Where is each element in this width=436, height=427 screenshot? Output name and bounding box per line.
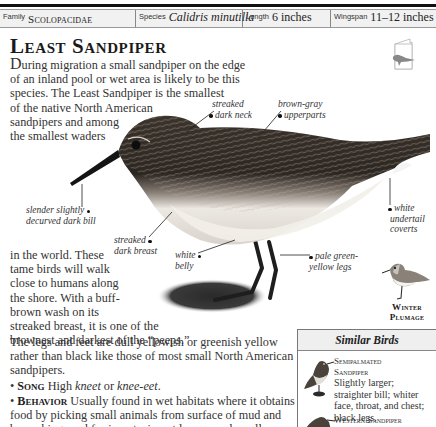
callout-legs: pale green- yellow legs	[309, 251, 358, 272]
western-sandpiper-icon	[302, 414, 336, 427]
continuation-paragraph: in the world. These tame birds will walk…	[10, 248, 189, 347]
callout-dot	[87, 210, 91, 214]
song-section: • Song High kneet or knee-eet.	[10, 379, 295, 393]
callout-dark-neck: streaked dark neck	[209, 99, 252, 120]
callout-upperparts: brown-gray upperparts	[278, 99, 326, 120]
callout-undertail: white undertail coverts	[388, 203, 425, 235]
winter-plumage-bird-icon	[380, 260, 436, 302]
legs-description: The legs and feet are dull yellowish or …	[10, 335, 295, 378]
book-page-bird-icon	[393, 38, 433, 70]
callout-bill: slender slightly decurved dark bill	[26, 205, 96, 226]
winter-plumage-label: Winter Plumage	[378, 302, 436, 322]
callout-dot	[198, 255, 202, 259]
semipalmated-sandpiper-icon	[303, 359, 335, 399]
callout-dot	[388, 208, 392, 212]
similar-birds-panel: Similar Birds Semipalmated Sandpiper Sli…	[297, 329, 436, 427]
callout-dot	[148, 240, 152, 244]
callout-dot	[209, 114, 213, 118]
similar-bird-name: Western Sandpiper	[334, 415, 402, 426]
similar-bird-name: Semipalmated Sandpiper	[334, 356, 381, 377]
behavior-section: • Behavior Usually found in wet habitats…	[10, 394, 295, 427]
species-body-text: The legs and feet are dull yellowish or …	[10, 335, 295, 427]
callout-dot	[309, 256, 313, 260]
callout-dot	[278, 114, 282, 118]
similar-birds-title: Similar Birds	[298, 330, 436, 351]
